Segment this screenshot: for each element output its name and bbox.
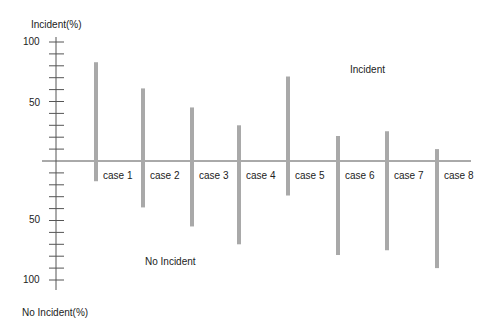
y-tick-label-top-100: 100 — [23, 36, 40, 48]
bar-case-1 — [94, 62, 98, 181]
y-tick-label-bottom-50: 50 — [29, 214, 40, 226]
bar-case-5 — [286, 77, 290, 196]
case-label: case 8 — [444, 170, 473, 182]
y-tick-label-bottom-100: 100 — [23, 274, 40, 286]
bar-case-2 — [141, 88, 145, 207]
bar-case-3 — [190, 107, 194, 226]
case-label: case 6 — [345, 170, 374, 182]
chart-area: Incident(%) 100 50 50 100 No Incident(%)… — [0, 0, 490, 329]
case-label: case 3 — [199, 170, 228, 182]
bar-case-7 — [385, 131, 389, 250]
y-axis-label-incident: Incident(%) — [31, 19, 82, 31]
bar-case-8 — [435, 149, 439, 268]
case-label: case 1 — [103, 170, 132, 182]
region-label-no-incident: No Incident — [145, 256, 196, 268]
y-axis-label-no-incident: No Incident(%) — [22, 307, 88, 319]
bar-case-4 — [237, 125, 241, 244]
case-label: case 2 — [150, 170, 179, 182]
y-tick-label-top-50: 50 — [29, 97, 40, 109]
case-label: case 5 — [295, 170, 324, 182]
case-label: case 4 — [246, 170, 275, 182]
case-label: case 7 — [394, 170, 423, 182]
region-label-incident: Incident — [350, 64, 385, 76]
bar-case-6 — [336, 136, 340, 255]
chart-svg — [0, 0, 490, 329]
